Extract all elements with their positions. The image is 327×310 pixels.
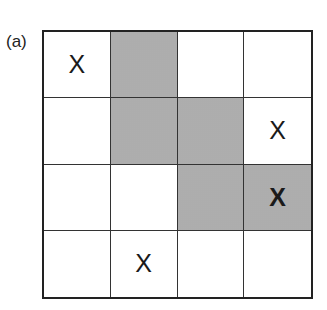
grid-cell-r0-c1 (111, 32, 178, 98)
grid-cell-r0-c0: X (44, 32, 111, 98)
grid-cell-r2-c1 (111, 165, 178, 231)
x-mark: X (269, 185, 286, 210)
x-mark: X (135, 251, 152, 276)
grid-cell-r1-c0 (44, 98, 111, 164)
grid-cell-r0-c2 (178, 32, 245, 98)
grid-cell-r1-c2 (178, 98, 245, 164)
grid-cell-r2-c2 (178, 165, 245, 231)
x-mark: X (69, 52, 86, 77)
grid-cell-r3-c0 (44, 231, 111, 297)
grid-cell-r1-c3: X (244, 98, 311, 164)
grid-cell-r3-c2 (178, 231, 245, 297)
x-mark: X (269, 118, 286, 143)
grid-cell-r1-c1 (111, 98, 178, 164)
grid-cell-r2-c3: X (244, 165, 311, 231)
grid-cell-r0-c3 (244, 32, 311, 98)
grid-cell-r2-c0 (44, 165, 111, 231)
panel-label: (a) (6, 32, 27, 52)
grid-diagram: XXXX (42, 30, 313, 299)
grid-cell-r3-c1: X (111, 231, 178, 297)
grid-cell-r3-c3 (244, 231, 311, 297)
